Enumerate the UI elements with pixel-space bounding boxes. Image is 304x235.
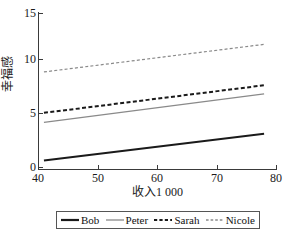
legend-label-peter: Peter [126,215,149,226]
chart-legend: Bob Peter Sarah Nicole [56,211,260,229]
legend-swatch-sarah [154,215,172,225]
plot-area [38,12,276,169]
legend-swatch-nicole [206,215,224,225]
y-axis-title: 幸福感 [2,42,14,106]
y-tick-label-10: 10 [24,53,36,65]
x-tick-label-70: 70 [205,172,229,184]
chart-figure: 0 5 10 15 幸福感 40 50 60 70 80 收入1 000 Bob… [0,0,304,235]
x-tick-label-60: 60 [145,172,169,184]
x-tick-label-50: 50 [86,172,110,184]
series-line-bob [44,134,264,161]
legend-entry-bob[interactable]: Bob [61,215,99,226]
x-axis-line [38,169,277,170]
y-tick-label-5: 5 [30,107,36,119]
x-tick-label-40: 40 [26,172,50,184]
legend-swatch-bob [61,215,79,225]
x-axis-title: 收入1 000 [38,186,277,198]
legend-entry-nicole[interactable]: Nicole [206,215,255,226]
y-tick-label-15: 15 [24,7,36,19]
series-lines [38,12,276,169]
legend-label-bob: Bob [81,215,99,226]
x-tick-mark-80 [276,165,277,169]
series-line-nicole [44,44,264,72]
x-tick-label-80: 80 [264,172,288,184]
series-line-sarah [44,85,264,113]
legend-entry-peter[interactable]: Peter [106,215,149,226]
legend-swatch-peter [106,215,124,225]
legend-label-sarah: Sarah [174,215,199,226]
legend-entry-sarah[interactable]: Sarah [154,215,199,226]
legend-label-nicole: Nicole [226,215,255,226]
